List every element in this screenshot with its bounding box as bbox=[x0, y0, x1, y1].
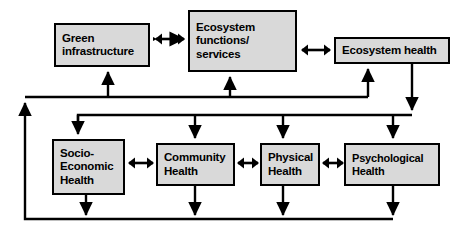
connector-health-distribution-bus bbox=[78, 115, 412, 125]
bidirectional-arrow-community-to-physical bbox=[235, 155, 261, 171]
bidirectional-arrow-green-infra-to-ecosystem-functions bbox=[153, 31, 187, 47]
node-ecosystem-functions-services-label: Ecosystem functions/ services bbox=[196, 21, 292, 62]
node-ecosystem-health[interactable]: Ecosystem health bbox=[334, 37, 450, 64]
node-green-infrastructure-label: Green infrastructure bbox=[62, 32, 145, 59]
node-socio-economic-health[interactable]: Socio- Economic Health bbox=[52, 139, 125, 195]
bidirectional-arrow-socio-economic-to-community bbox=[126, 155, 156, 171]
node-psychological-health[interactable]: Psychological Health bbox=[344, 143, 440, 186]
node-physical-health-label: Physical Health bbox=[268, 151, 315, 178]
node-ecosystem-health-label: Ecosystem health bbox=[342, 44, 445, 58]
node-ecosystem-functions-services[interactable]: Ecosystem functions/ services bbox=[188, 10, 297, 72]
node-community-health-label: Community Health bbox=[164, 151, 230, 178]
diagram-canvas: Green infrastructure Ecosystem functions… bbox=[0, 0, 466, 237]
bidirectional-arrow-physical-to-psychological bbox=[320, 155, 346, 171]
bidirectional-arrow-ecosystem-functions-to-ecosystem-health bbox=[299, 42, 333, 58]
node-green-infrastructure[interactable]: Green infrastructure bbox=[54, 23, 150, 67]
node-socio-economic-health-label: Socio- Economic Health bbox=[60, 147, 120, 188]
node-community-health[interactable]: Community Health bbox=[156, 143, 235, 186]
node-psychological-health-label: Psychological Health bbox=[352, 152, 435, 178]
node-physical-health[interactable]: Physical Health bbox=[260, 143, 320, 186]
